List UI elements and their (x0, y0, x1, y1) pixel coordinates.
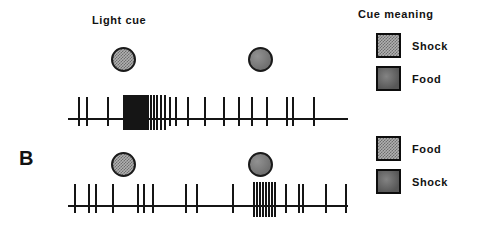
legend-swatch-shock-checkered (376, 33, 401, 58)
legend: Shock Food Food Shock (0, 0, 478, 231)
figure-panel-b: Light cue B Cue meaning Shock Food Food (0, 0, 478, 231)
legend-swatch-food-checkered (376, 136, 401, 161)
legend-label-bottom-2: Shock (412, 176, 448, 188)
legend-label-top-1: Shock (412, 40, 448, 52)
legend-label-bottom-1: Food (412, 143, 441, 155)
legend-swatch-food-solid (376, 66, 401, 91)
legend-swatch-shock-solid (376, 169, 401, 194)
legend-label-top-2: Food (412, 73, 441, 85)
